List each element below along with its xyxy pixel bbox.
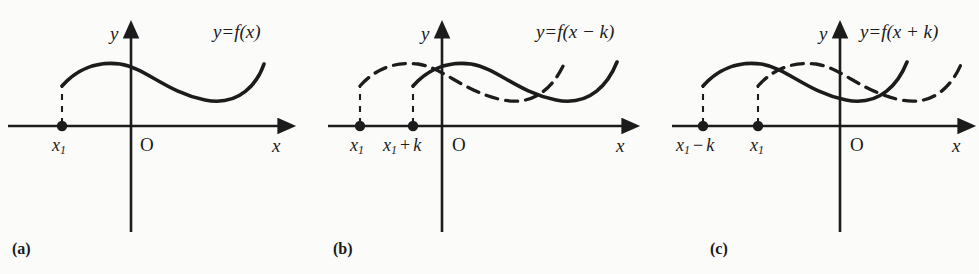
tick-x1mk-k-c: k — [706, 135, 714, 155]
tick-x1-sub-c: 1 — [758, 143, 764, 157]
func-eq-a: = — [221, 21, 234, 42]
tick-label-x1-c: x1 — [750, 136, 764, 156]
curve-fx-plus-k-c — [703, 62, 907, 101]
func-eq-c: = — [868, 21, 881, 42]
panel-caption-a: (a) — [12, 240, 31, 258]
figure-root: y x O x1 y=f(x) (a) — [0, 0, 979, 274]
tick-x1mk-op-c: − — [690, 135, 706, 155]
curve-fx-dashed-c — [758, 62, 962, 101]
x-axis-label-c: x — [952, 136, 960, 155]
point-x1-b — [355, 121, 365, 131]
tick-x1-base-c: x — [750, 135, 758, 155]
tick-x1-sub-b: 1 — [358, 143, 364, 157]
panel-c: y x O x1−k x1 y=f(x + k) (c) — [660, 0, 979, 274]
curve-fx-a — [62, 63, 264, 101]
tick-label-x1minusk-c: x1−k — [676, 136, 714, 156]
tick-label-x1-b: x1 — [350, 136, 364, 156]
tick-x1k-k-b: k — [413, 135, 421, 155]
panel-caption-c: (c) — [710, 240, 728, 258]
func-expr-a: f(x) — [234, 21, 260, 42]
tick-x1k-base-b: x — [383, 135, 391, 155]
point-x1plusk-b — [408, 121, 418, 131]
curve-fx-minus-k-b — [413, 62, 617, 101]
tick-x1k-op-b: + — [397, 135, 413, 155]
function-label-c: y=f(x + k) — [860, 22, 938, 41]
tick-x1-sub-a: 1 — [60, 143, 66, 157]
x-axis-label-b: x — [616, 136, 624, 155]
panel-a: y x O x1 y=f(x) (a) — [0, 0, 320, 274]
tick-label-x1-a: x1 — [52, 136, 66, 156]
point-x1minusk-c — [698, 121, 708, 131]
tick-x1mk-base-c: x — [676, 135, 684, 155]
y-axis-label-a: y — [110, 24, 118, 43]
y-axis-label-b: y — [421, 24, 429, 43]
point-x1-c — [753, 121, 763, 131]
origin-label-c: O — [850, 135, 864, 154]
func-expr-c: f(x + k) — [881, 21, 938, 42]
function-label-b: y=f(x − k) — [536, 22, 614, 41]
panel-caption-b: (b) — [333, 240, 353, 258]
origin-label-a: O — [140, 135, 154, 154]
y-axis-label-c: y — [819, 24, 827, 43]
point-x1-a — [57, 121, 67, 131]
tick-x1-base-b: x — [350, 135, 358, 155]
tick-label-x1plusk-b: x1+k — [383, 136, 421, 156]
func-eq-b: = — [544, 21, 557, 42]
panel-b: y x O x1 x1+k y=f(x − k) (b) — [320, 0, 660, 274]
x-axis-label-a: x — [272, 136, 280, 155]
function-label-a: y=f(x) — [213, 22, 261, 41]
origin-label-b: O — [452, 135, 466, 154]
func-expr-b: f(x − k) — [557, 21, 614, 42]
tick-x1-base-a: x — [52, 135, 60, 155]
